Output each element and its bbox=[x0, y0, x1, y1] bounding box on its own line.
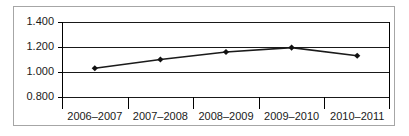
x-axis-tick-label: 2010–2011 bbox=[324, 110, 390, 122]
data-point-marker bbox=[354, 53, 360, 59]
y-axis-tick-label: 1.200 bbox=[10, 40, 54, 52]
y-axis-tick-label: 0.800 bbox=[10, 90, 54, 102]
chart-container: 1.4001.2001.0000.800 2006–20072007–20082… bbox=[0, 0, 409, 136]
x-axis-tick-label: 2009–2010 bbox=[259, 110, 325, 122]
y-axis-tick-label: 1.000 bbox=[10, 65, 54, 77]
data-point-marker bbox=[157, 56, 163, 62]
gridlines-group bbox=[62, 23, 390, 98]
x-axis-tick-label: 2006–2007 bbox=[62, 110, 128, 122]
x-axis-tick-label: 2007–2008 bbox=[128, 110, 194, 122]
data-point-marker bbox=[92, 65, 98, 71]
data-markers-group bbox=[92, 45, 361, 72]
y-axis-tick-label: 1.400 bbox=[10, 15, 54, 27]
tick-marks-group bbox=[58, 22, 390, 109]
data-point-marker bbox=[223, 49, 229, 55]
x-axis-tick-label: 2008–2009 bbox=[193, 110, 259, 122]
data-point-marker bbox=[289, 45, 295, 51]
